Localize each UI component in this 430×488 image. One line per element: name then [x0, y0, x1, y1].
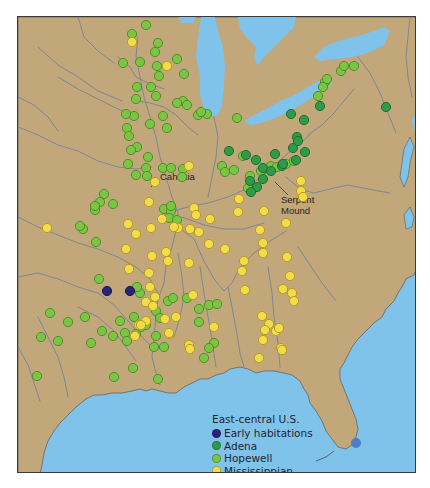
site-marker-mississippian — [42, 223, 51, 232]
site-marker-adena — [251, 155, 260, 164]
site-marker-mississippian — [204, 239, 213, 248]
site-marker-hopewell — [63, 317, 72, 326]
site-marker-hopewell — [179, 69, 188, 78]
site-marker-mississippian — [234, 194, 243, 203]
site-marker-mississippian — [121, 244, 130, 253]
early-habitations-dot-icon — [212, 429, 221, 438]
site-marker-hopewell — [158, 111, 167, 120]
site-marker-hopewell — [194, 304, 203, 313]
site-marker-hopewell — [118, 58, 127, 67]
site-marker-mississippian — [130, 331, 139, 340]
site-marker-hopewell — [152, 61, 161, 70]
site-marker-mississippian — [144, 197, 153, 206]
site-marker-mississippian — [164, 328, 173, 337]
site-marker-hopewell — [159, 342, 168, 351]
adena-dot-icon — [212, 441, 221, 450]
site-marker-adena — [241, 150, 250, 159]
site-marker-hopewell — [172, 54, 181, 63]
site-marker-hopewell — [141, 20, 150, 29]
site-marker-mississippian — [278, 284, 287, 293]
site-marker-adena — [291, 155, 300, 164]
site-marker-mississippian — [239, 256, 248, 265]
site-marker-adena — [315, 101, 324, 110]
site-marker-hopewell — [229, 165, 238, 174]
site-marker-hopewell — [122, 336, 131, 345]
site-marker-mississippian — [237, 266, 246, 275]
site-marker-mississippian — [150, 292, 159, 301]
site-marker-hopewell — [182, 100, 191, 109]
site-marker-hopewell — [97, 326, 106, 335]
site-marker-hopewell — [132, 82, 141, 91]
serpent-mound-label-line1: Serpent — [281, 194, 315, 205]
site-marker-mississippian — [123, 219, 132, 228]
site-marker-mississippian — [254, 353, 263, 362]
site-marker-mississippian — [162, 61, 171, 70]
site-marker-hopewell — [313, 91, 322, 100]
map-frame: Cahokia Serpent Mound East-central U.S. … — [17, 16, 416, 473]
site-marker-hopewell — [196, 107, 205, 116]
map-canvas: Cahokia Serpent Mound — [18, 17, 416, 473]
site-marker-mississippian — [220, 244, 229, 253]
site-marker-hopewell — [90, 201, 99, 210]
serpent-mound-label-line2: Mound — [281, 205, 310, 216]
site-marker-hopewell — [154, 71, 163, 80]
site-marker-hopewell — [91, 237, 100, 246]
site-marker-hopewell — [36, 332, 45, 341]
site-marker-mississippian — [255, 225, 264, 234]
site-marker-hopewell — [45, 308, 54, 317]
site-marker-mississippian — [205, 214, 214, 223]
site-marker-mississippian — [171, 312, 180, 321]
site-marker-hopewell — [86, 338, 95, 347]
site-marker-mississippian — [298, 192, 307, 201]
site-marker-hopewell — [149, 342, 158, 351]
site-marker-hopewell — [146, 82, 155, 91]
site-marker-hopewell — [121, 109, 130, 118]
site-marker-mississippian — [194, 227, 203, 236]
legend-item-mississippian: Mississippian — [212, 465, 372, 474]
site-marker-hopewell — [75, 221, 84, 230]
site-marker-mississippian — [150, 177, 159, 186]
legend-label-adena: Adena — [224, 440, 257, 452]
site-marker-hopewell — [94, 274, 103, 283]
legend-title: East-central U.S. — [212, 413, 372, 425]
site-marker-hopewell — [131, 94, 140, 103]
legend: East-central U.S. Early habitations Aden… — [212, 413, 372, 473]
site-marker-mississippian — [282, 252, 291, 261]
site-marker-adena — [246, 187, 255, 196]
site-marker-mississippian — [281, 218, 290, 227]
hopewell-dot-icon — [212, 454, 221, 463]
site-marker-mississippian — [147, 251, 156, 260]
legend-label-mississippian: Mississippian — [224, 465, 293, 473]
site-marker-hopewell — [80, 312, 89, 321]
site-marker-hopewell — [166, 201, 175, 210]
site-marker-mississippian — [161, 247, 170, 256]
site-marker-hopewell — [339, 61, 348, 70]
site-marker-hopewell — [194, 317, 203, 326]
site-marker-mississippian — [296, 176, 305, 185]
site-marker-hopewell — [143, 152, 152, 161]
site-marker-hopewell — [162, 123, 171, 132]
site-marker-hopewell — [32, 371, 41, 380]
site-marker-hopewell — [109, 372, 118, 381]
site-marker-mississippian — [163, 256, 172, 265]
site-marker-mississippian — [184, 161, 193, 170]
site-marker-mississippian — [160, 314, 169, 323]
site-marker-mississippian — [127, 37, 136, 46]
site-marker-hopewell — [204, 343, 213, 352]
site-marker-adena — [270, 149, 279, 158]
site-marker-hopewell — [168, 293, 177, 302]
site-marker-hopewell — [153, 374, 162, 383]
site-marker-adena — [381, 102, 390, 111]
site-marker-mississippian — [277, 345, 286, 354]
site-marker-hopewell — [166, 163, 175, 172]
site-marker-hopewell — [153, 38, 162, 47]
site-marker-hopewell — [124, 131, 133, 140]
site-marker-hopewell — [53, 336, 62, 345]
site-marker-hopewell — [142, 171, 151, 180]
site-marker-mississippian — [124, 264, 133, 273]
site-marker-hopewell — [151, 331, 160, 340]
site-marker-mississippian — [184, 258, 193, 267]
site-marker-mississippian — [240, 285, 249, 294]
site-marker-hopewell — [322, 74, 331, 83]
site-marker-mississippian — [233, 207, 242, 216]
